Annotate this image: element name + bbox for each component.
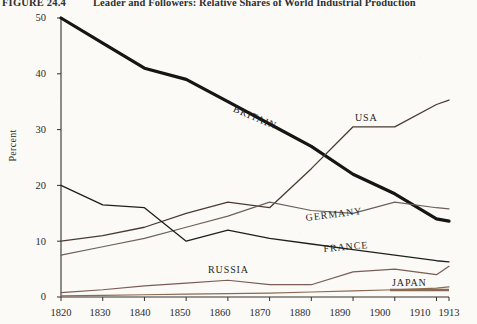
series-line-russia xyxy=(61,266,449,292)
series-line-germany xyxy=(61,202,449,255)
series-lines xyxy=(61,18,449,296)
series-line-france xyxy=(61,185,449,261)
x-tick-marks xyxy=(61,297,449,301)
series-label-russia: RUSSIA xyxy=(208,264,249,275)
series-label-usa: USA xyxy=(355,112,378,123)
figure-page: FIGURE 24.4 Leader and Followers: Relati… xyxy=(0,0,477,324)
series-label-japan: JAPAN xyxy=(392,277,427,288)
line-chart-plot xyxy=(0,0,477,324)
